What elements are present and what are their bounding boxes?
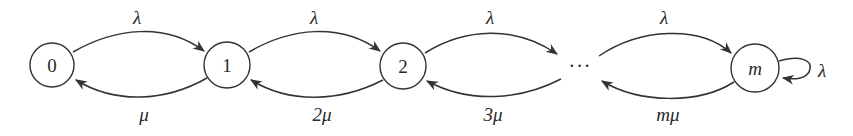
edge-1-to-0 [76, 78, 207, 97]
edge-ellipsis-to-2 [427, 79, 561, 97]
edge-ellipsis-to-m [599, 33, 731, 56]
edge-label-1-2: λ [310, 7, 318, 29]
edge-label-m-ellipsis: mμ [656, 104, 679, 126]
state-transition-diagram [0, 0, 853, 136]
self-loop-m [779, 58, 810, 78]
edge-label-2-ellipsis: λ [486, 7, 494, 29]
edge-1-to-2 [249, 32, 380, 52]
edge-2-to-ellipsis [425, 33, 557, 54]
edge-label-1-0: μ [139, 104, 149, 126]
self-loop-label-m: λ [818, 60, 826, 82]
edge-label-ellipsis-2: 3μ [483, 104, 502, 126]
edge-label-2-1: 2μ [312, 104, 331, 126]
state-label-1: 1 [222, 55, 232, 77]
edge-0-to-1 [73, 32, 204, 52]
edge-m-to-ellipsis [602, 81, 734, 98]
edge-2-to-1 [251, 80, 383, 97]
ellipsis: ··· [569, 55, 592, 78]
edge-label-ellipsis-m: λ [660, 7, 668, 29]
state-label-0: 0 [47, 55, 57, 77]
edge-label-0-1: λ [133, 7, 141, 29]
state-label-2: 2 [398, 56, 408, 78]
state-label-m: m [748, 58, 762, 80]
